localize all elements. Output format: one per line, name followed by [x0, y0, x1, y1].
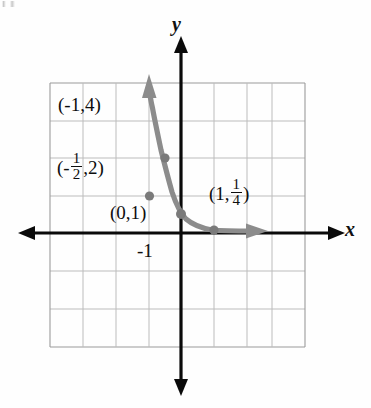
coordinate-plane	[0, 0, 371, 408]
paren-close: )	[243, 184, 249, 203]
paren-close: )	[140, 203, 146, 222]
point-a-y: 4	[85, 95, 95, 114]
x-tick-label-minus1: -1	[137, 241, 153, 260]
fraction-one-half: 12	[71, 151, 83, 183]
point-c-y: 1	[131, 203, 141, 222]
fraction-numerator: 1	[231, 177, 243, 193]
fraction-one-quarter: 14	[231, 177, 243, 209]
axis-label-y: y	[172, 14, 181, 34]
fraction-denominator: 4	[231, 193, 243, 208]
point-a-x: -1	[64, 95, 80, 114]
fraction-numerator: 1	[71, 151, 83, 167]
point-b-y: 2	[88, 158, 98, 177]
point-label-1-quarter: (1, 14)	[209, 178, 249, 210]
paren-close: )	[94, 95, 100, 114]
point-d-sep: ,	[225, 184, 230, 203]
axis-label-x: x	[345, 219, 355, 239]
paren-close: )	[97, 158, 103, 177]
point-label-minushalf-2: (-12, 2)	[57, 152, 104, 184]
point-d-x: 1	[215, 184, 225, 203]
point-label-0-1: (0, 1)	[110, 203, 146, 222]
fraction-denominator: 2	[71, 167, 83, 182]
point-b-x-sign: -	[63, 158, 69, 177]
figure-canvas: y x (-1, 4) (-12, 2) (0, 1) (1, 14) -1	[0, 0, 371, 408]
point-label-minus1-4: (-1, 4)	[58, 95, 101, 114]
point-c-x: 0	[116, 203, 126, 222]
